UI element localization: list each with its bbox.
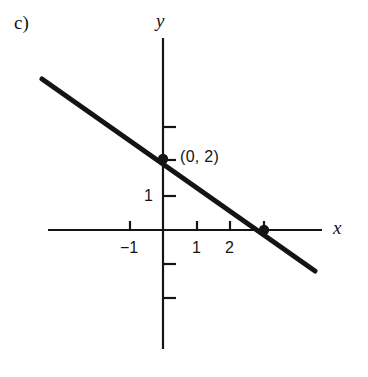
x-axis-label: x	[333, 218, 341, 237]
y-axis-ticks	[163, 127, 176, 298]
y-axis-label: y	[156, 11, 164, 30]
plotted-line	[42, 79, 315, 271]
x-tick-label-neg1: −1	[120, 240, 138, 256]
graph-figure: c) y x (0, 2) −1 1 2 1	[0, 0, 368, 377]
coordinate-plane-svg	[0, 0, 368, 377]
part-label: c)	[14, 13, 29, 32]
x-tick-label-2: 2	[225, 240, 234, 256]
y-tick-label-1: 1	[144, 188, 153, 204]
point-y-intercept	[158, 154, 168, 164]
y-intercept-point-label: (0, 2)	[180, 149, 219, 165]
x-tick-label-1: 1	[192, 240, 201, 256]
point-x-intercept	[259, 225, 269, 235]
